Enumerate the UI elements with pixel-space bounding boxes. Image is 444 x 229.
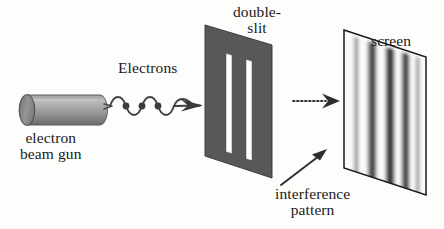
label-screen: screen (371, 33, 411, 49)
interference-pointer-arrow (281, 149, 327, 185)
label-electron-beam-gun: electron beam gun (20, 130, 82, 162)
electron-particle (123, 103, 162, 110)
double-slit-experiment-figure: Electrons electron beam gun double- slit… (0, 0, 444, 229)
detection-screen (344, 30, 426, 195)
electron-gun-shape (19, 95, 112, 125)
label-interference-pattern: interference pattern (275, 186, 350, 218)
label-electrons: Electrons (118, 60, 177, 76)
propagation-dotted-arrow (293, 94, 340, 109)
double-slit-barrier (205, 25, 272, 178)
electron-beam-wave (110, 97, 203, 115)
label-double-slit: double- slit (233, 4, 281, 36)
